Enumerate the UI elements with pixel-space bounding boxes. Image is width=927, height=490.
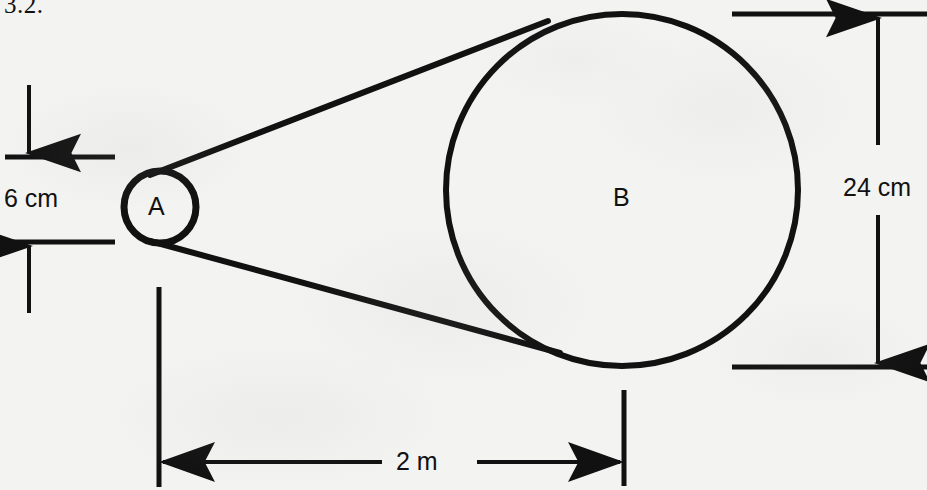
dimension-label-24cm: 24 cm bbox=[843, 173, 911, 202]
belt-lower-tangent-line bbox=[150, 241, 560, 353]
pulley-belt-diagram bbox=[0, 0, 927, 490]
dimension-2m bbox=[159, 287, 624, 487]
pulley-a-label: A bbox=[148, 192, 165, 221]
figure-page: 3.2. bbox=[0, 0, 927, 490]
belt bbox=[150, 21, 560, 353]
belt-upper-tangent-line bbox=[150, 21, 548, 175]
dimension-label-6cm: 6 cm bbox=[4, 184, 58, 213]
dimension-label-2m: 2 m bbox=[396, 447, 438, 476]
figure-number: 3.2. bbox=[4, 0, 44, 19]
pulley-b-label: B bbox=[613, 183, 630, 212]
